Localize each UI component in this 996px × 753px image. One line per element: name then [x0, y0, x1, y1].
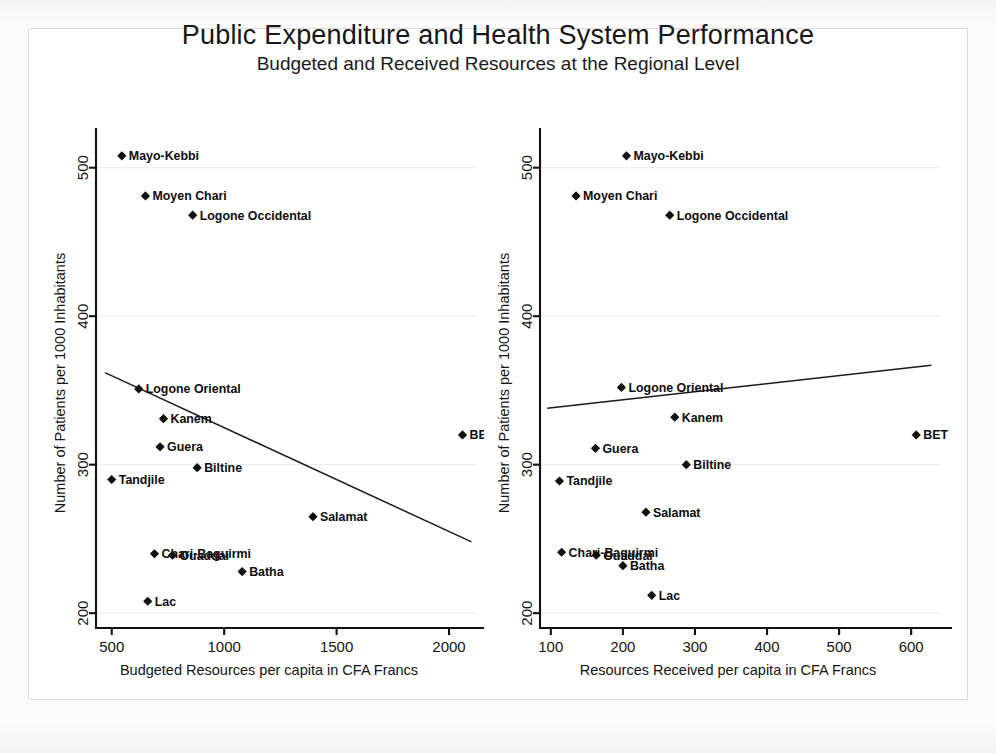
y-axis-tick-label: 200	[519, 601, 536, 626]
x-axis-tick-label: 500	[99, 638, 124, 653]
data-point-marker	[591, 444, 600, 453]
data-point-label: Lac	[155, 595, 176, 609]
figure-canvas: Public Expenditure and Health System Per…	[0, 0, 996, 753]
y-axis-tick-label: 400	[75, 304, 92, 329]
y-axis-tick-label: 500	[75, 155, 92, 180]
data-point-label: Ouaddai	[179, 549, 229, 563]
data-point-label: Kanem	[170, 412, 211, 426]
data-point-label: BET	[470, 428, 484, 442]
data-point-marker	[141, 191, 150, 200]
data-point-label: Guera	[602, 442, 638, 456]
data-point-label: Tandjile	[119, 473, 165, 487]
data-point-label: Logone Oriental	[628, 381, 723, 395]
data-point-marker	[308, 512, 317, 521]
data-point-marker	[155, 442, 164, 451]
data-point-marker	[107, 475, 116, 484]
data-point-label: Guera	[167, 440, 203, 454]
data-point-marker	[682, 460, 691, 469]
y-axis-tick-label: 200	[75, 601, 92, 626]
x-axis-tick-label: 200	[610, 638, 635, 653]
data-point-marker	[143, 597, 152, 606]
data-point-marker	[665, 211, 674, 220]
data-point-label: Salamat	[320, 510, 368, 524]
data-point-marker	[134, 384, 143, 393]
chart-panel-left: Number of Patients per 1000 Inhabitants …	[44, 128, 484, 698]
data-point-label: Mayo-Kebbi	[129, 149, 199, 163]
data-point-marker	[641, 508, 650, 517]
y-axis-tick-label: 500	[519, 155, 536, 180]
title-block: Public Expenditure and Health System Per…	[0, 20, 996, 75]
data-point-label: Batha	[249, 565, 284, 579]
data-point-marker	[622, 151, 631, 160]
x-axis-tick-label: 600	[899, 638, 924, 653]
data-point-marker	[670, 413, 679, 422]
data-point-marker	[912, 430, 921, 439]
data-point-marker	[557, 548, 566, 557]
data-point-label: Tandjile	[566, 474, 612, 488]
data-point-label: Biltine	[693, 458, 731, 472]
data-point-marker	[188, 211, 197, 220]
x-axis-tick-label: 1500	[320, 638, 353, 653]
data-point-label: Lac	[659, 589, 680, 603]
x-axis-tick-label: 400	[755, 638, 780, 653]
x-axis-tick-label: 500	[827, 638, 852, 653]
data-point-marker	[159, 414, 168, 423]
scatter-plot-left: 200300400500500100015002000Mayo-KebbiMoy…	[44, 128, 484, 653]
x-axis-label-left: Budgeted Resources per capita in CFA Fra…	[64, 662, 474, 678]
data-point-label: Salamat	[653, 506, 701, 520]
data-point-label: Kanem	[682, 411, 723, 425]
data-point-label: BET	[923, 428, 948, 442]
x-axis-label-right: Resources Received per capita in CFA Fra…	[508, 662, 948, 678]
chart-panel-right: Number of Patients per 1000 Inhabitants …	[488, 128, 958, 698]
data-point-marker	[571, 191, 580, 200]
data-point-label: Logone Oriental	[146, 382, 241, 396]
data-point-label: Biltine	[204, 461, 242, 475]
data-point-label: Mayo-Kebbi	[633, 149, 703, 163]
data-point-marker	[117, 151, 126, 160]
page-title: Public Expenditure and Health System Per…	[0, 20, 996, 50]
data-point-label: Moyen Chari	[583, 189, 657, 203]
data-point-label: Batha	[630, 559, 665, 573]
x-axis-tick-label: 100	[538, 638, 563, 653]
data-point-marker	[150, 549, 159, 558]
data-point-marker	[617, 383, 626, 392]
data-point-marker	[647, 591, 656, 600]
scatter-plot-right: 200300400500100200300400500600Mayo-Kebbi…	[488, 128, 958, 653]
y-axis-tick-label: 300	[75, 452, 92, 477]
x-axis-tick-label: 2000	[432, 638, 465, 653]
y-axis-tick-label: 300	[519, 452, 536, 477]
data-point-marker	[555, 476, 564, 485]
data-point-marker	[238, 567, 247, 576]
x-axis-tick-label: 300	[682, 638, 707, 653]
y-axis-tick-label: 400	[519, 304, 536, 329]
data-point-label: Moyen Chari	[152, 189, 226, 203]
x-axis-tick-label: 1000	[207, 638, 240, 653]
data-point-marker	[458, 430, 467, 439]
data-point-label: Logone Occidental	[200, 209, 312, 223]
data-point-label: Logone Occidental	[677, 209, 789, 223]
page-subtitle: Budgeted and Received Resources at the R…	[0, 53, 996, 75]
